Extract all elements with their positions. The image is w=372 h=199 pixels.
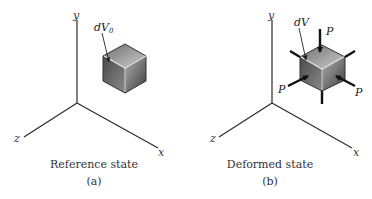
z-axis-label: z (209, 132, 216, 145)
panel-deformed-state: y z x P P P dV D (209, 9, 363, 188)
panel-a-tag: (a) (86, 175, 101, 188)
x-axis (77, 103, 158, 148)
volume-element-cube-a (103, 44, 146, 93)
reference-state-caption: Reference state (50, 158, 138, 171)
load-label-top: P (325, 25, 334, 38)
coordinate-axes-a: y z x (13, 9, 165, 159)
load-label-right: P (354, 86, 363, 99)
dv0-label: dV0 (94, 21, 114, 35)
rod-upper-right (345, 51, 355, 57)
dv-label: dV (294, 16, 310, 29)
x-axis (272, 103, 352, 148)
rod-upper-left (290, 51, 300, 57)
deformed-state-caption: Deformed state (227, 158, 313, 171)
y-axis-label: y (72, 9, 80, 22)
volume-element-cube-b (300, 45, 345, 91)
panel-b-tag: (b) (262, 175, 278, 188)
z-axis (24, 103, 77, 137)
volume-element-diagram: y z x dV0 Reference state (a) y z (0, 0, 372, 199)
z-axis (219, 103, 272, 137)
z-axis-label: z (13, 132, 20, 145)
load-label-left: P (277, 83, 286, 96)
panel-reference-state: y z x dV0 Reference state (a) (13, 9, 165, 188)
x-axis-label: x (158, 146, 165, 159)
y-axis-label: y (267, 9, 275, 22)
x-axis-label: x (353, 146, 360, 159)
